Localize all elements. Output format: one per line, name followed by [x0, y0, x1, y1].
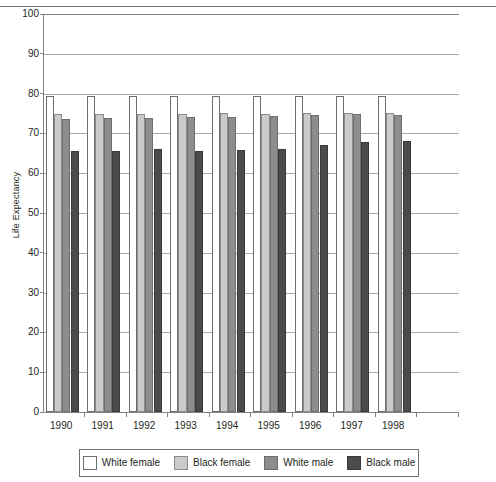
x-axis-label-1997: 1997: [329, 420, 374, 432]
bar-black-male-1994: [237, 150, 245, 412]
bar-white-male-1998: [394, 115, 402, 412]
bar-group-1996: [295, 14, 328, 412]
bar-group-1995: [253, 14, 286, 412]
y-tick-label-90: 90: [7, 49, 39, 59]
x-axis-label-1996: 1996: [288, 420, 333, 432]
x-tick-1994: [250, 412, 251, 417]
bar-black-male-1996: [320, 145, 328, 412]
bar-white-female-1995: [253, 96, 261, 412]
bar-black-male-1991: [112, 151, 120, 412]
x-tick-1995: [292, 412, 293, 417]
legend-item-black-male[interactable]: Black male: [347, 456, 415, 470]
x-tick-1998: [416, 412, 417, 417]
bar-white-female-1990: [46, 96, 54, 412]
x-tick-1993: [209, 412, 210, 417]
bar-black-female-1990: [54, 114, 62, 412]
bar-black-male-1992: [154, 149, 162, 412]
bar-group-1994: [212, 14, 245, 412]
y-tick-label-20: 20: [7, 327, 39, 337]
y-tick-label-30: 30: [7, 288, 39, 298]
x-tick-1992: [167, 412, 168, 417]
x-axis-label-1991: 1991: [80, 420, 125, 432]
y-tick-label-40: 40: [7, 248, 39, 258]
x-tick-trailing: [458, 412, 459, 417]
bar-white-male-1995: [270, 116, 278, 412]
x-axis-label-1992: 1992: [122, 420, 167, 432]
legend-label: Black female: [193, 458, 250, 468]
x-axis-ticks: [43, 412, 458, 420]
chart-figure: Life Expectancy 0102030405060708090100 1…: [0, 0, 496, 482]
x-tick-1991: [126, 412, 127, 417]
white-female-swatch: [83, 456, 97, 470]
legend-label: White male: [283, 458, 333, 468]
bar-black-male-1998: [403, 141, 411, 412]
bar-white-female-1994: [212, 96, 220, 412]
bar-white-male-1992: [145, 118, 153, 412]
x-tick-1990: [84, 412, 85, 417]
bar-black-male-1997: [361, 142, 369, 412]
bar-white-male-1991: [104, 118, 112, 412]
y-tick-label-10: 10: [7, 367, 39, 377]
white-male-swatch: [264, 456, 278, 470]
title-divider-rule: [0, 6, 496, 7]
y-tick-label-60: 60: [7, 168, 39, 178]
legend-label: Black male: [366, 458, 415, 468]
y-tick-label-100: 100: [7, 9, 39, 19]
bar-black-female-1997: [344, 113, 352, 412]
bar-black-female-1991: [95, 114, 103, 412]
legend-item-white-male[interactable]: White male: [264, 456, 333, 470]
bar-white-female-1991: [87, 96, 95, 412]
bar-white-male-1993: [187, 117, 195, 412]
x-axis-label-1990: 1990: [39, 420, 84, 432]
bar-group-1997: [336, 14, 369, 412]
bar-group-1992: [129, 14, 162, 412]
x-axis-label-1993: 1993: [163, 420, 208, 432]
bar-white-male-1990: [62, 119, 70, 412]
bar-black-male-1990: [71, 151, 79, 412]
x-tick-1996: [333, 412, 334, 417]
bar-group-1998: [378, 14, 411, 412]
bar-black-male-1993: [195, 151, 203, 412]
bar-white-female-1998: [378, 96, 386, 412]
y-tick-label-50: 50: [7, 208, 39, 218]
black-male-swatch: [347, 456, 361, 470]
bar-black-female-1992: [137, 114, 145, 413]
y-tick-label-80: 80: [7, 89, 39, 99]
y-tick-label-0: 0: [7, 407, 39, 417]
bar-white-male-1994: [228, 117, 236, 412]
bar-white-female-1996: [295, 96, 303, 412]
legend-label: White female: [102, 458, 160, 468]
legend-item-black-female[interactable]: Black female: [174, 456, 250, 470]
bar-black-female-1993: [178, 114, 186, 413]
x-tick-1997: [375, 412, 376, 417]
bar-black-female-1994: [220, 113, 228, 412]
bar-group-1990: [46, 14, 79, 412]
bar-white-female-1992: [129, 96, 137, 412]
bar-white-female-1993: [170, 96, 178, 412]
bar-white-male-1997: [353, 114, 361, 412]
bar-group-1993: [170, 14, 203, 412]
black-female-swatch: [174, 456, 188, 470]
plot-area: 0102030405060708090100: [43, 14, 459, 413]
bar-group-1991: [87, 14, 120, 412]
chart-legend: White femaleBlack femaleWhite maleBlack …: [79, 449, 419, 477]
x-axis-label-1998: 1998: [371, 420, 416, 432]
legend-item-white-female[interactable]: White female: [83, 456, 160, 470]
bar-black-male-1995: [278, 149, 286, 412]
y-tick-label-70: 70: [7, 128, 39, 138]
x-axis-label-1995: 1995: [246, 420, 291, 432]
bar-black-female-1998: [386, 113, 394, 412]
bar-black-female-1995: [261, 114, 269, 413]
bar-white-female-1997: [336, 96, 344, 412]
x-axis-label-1994: 1994: [205, 420, 250, 432]
bar-white-male-1996: [311, 115, 319, 412]
bar-groups: [44, 14, 459, 412]
bar-black-female-1996: [303, 113, 311, 412]
x-axis-labels: 199019911992199319941995199619971998: [43, 420, 458, 436]
